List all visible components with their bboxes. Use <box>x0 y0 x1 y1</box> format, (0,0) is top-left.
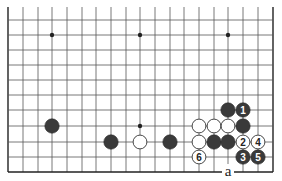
go-board-diagram: a 124635 <box>0 0 282 181</box>
white-stone-move-6: 6 <box>192 150 206 164</box>
move-number: 2 <box>240 137 246 148</box>
star-point <box>138 33 142 37</box>
black-stone-move-3: 3 <box>236 150 250 164</box>
black-stone <box>221 135 235 149</box>
black-stone <box>207 135 221 149</box>
black-stone-move-5: 5 <box>251 150 265 164</box>
black-stone <box>236 119 250 133</box>
black-stone <box>104 135 118 149</box>
white-stone <box>207 119 221 133</box>
black-stone <box>163 135 177 149</box>
star-point <box>50 33 54 37</box>
black-stone <box>221 103 235 117</box>
point-label-a: a <box>225 163 232 179</box>
move-number: 5 <box>255 152 261 163</box>
point-labels: a <box>222 163 234 179</box>
move-number: 1 <box>240 105 246 116</box>
white-stone <box>192 119 206 133</box>
white-stone <box>221 119 235 133</box>
move-number: 3 <box>240 152 246 163</box>
move-number: 6 <box>196 152 202 163</box>
white-stone-move-2: 2 <box>236 135 250 149</box>
move-number: 4 <box>255 137 261 148</box>
star-point <box>226 33 230 37</box>
star-point <box>138 124 142 128</box>
white-stone <box>133 135 147 149</box>
white-stone <box>192 135 206 149</box>
black-stone <box>45 119 59 133</box>
white-stone-move-4: 4 <box>251 135 265 149</box>
black-stone-move-1: 1 <box>236 103 250 117</box>
